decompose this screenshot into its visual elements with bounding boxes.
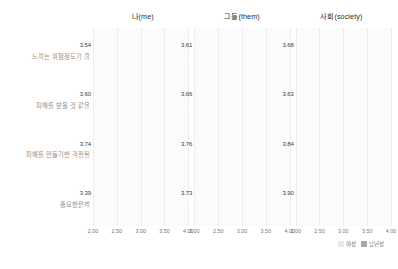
- bar-group: 3.61 3.64: [194, 28, 289, 78]
- x-tick: 2.50: [213, 228, 224, 234]
- x-tick: 2.00: [189, 228, 200, 234]
- bar-group: 3.54 3.53: [93, 28, 188, 78]
- axis-panel-me: 2.00 2.50 3.00 3.50 4.00: [93, 226, 188, 242]
- x-tick: 3.50: [261, 228, 272, 234]
- bar-value: 3.60: [71, 91, 91, 97]
- bar-value: 3.42: [71, 203, 91, 209]
- bar-value: 3.66: [172, 91, 192, 97]
- bar-group: 3.90 3.79: [296, 177, 391, 227]
- panel-society: 3.68 3.65 3.63: [296, 28, 391, 226]
- x-tick: 3.00: [237, 228, 248, 234]
- axis-spacer: [0, 226, 93, 242]
- bar-value: 3.63: [274, 91, 294, 97]
- legend-label: 여성: [346, 240, 356, 248]
- bar-value: 3.63: [274, 104, 294, 110]
- bar-value: 3.68: [274, 42, 294, 48]
- bar-group: 3.73 3.65: [194, 177, 289, 227]
- bar-value: 3.65: [274, 55, 294, 61]
- legend: 여성 남년성: [338, 240, 384, 248]
- bar-value: 3.39: [71, 190, 91, 196]
- bar-value: 3.84: [274, 141, 294, 147]
- bar-value: 3.53: [71, 55, 91, 61]
- legend-swatch-light-icon: [338, 241, 344, 247]
- bar-value: 3.75: [274, 154, 294, 160]
- bar-group: 3.76 3.75: [194, 127, 289, 177]
- plot-area: 느끼는 위험정도가 큼 피해를 받을 것 같음 피해를 만들기번 걱정됨 중요한…: [0, 28, 398, 226]
- legend-label: 남년성: [369, 240, 384, 248]
- bar-value: 3.75: [172, 154, 192, 160]
- panel-title-me: 나(me): [93, 11, 192, 27]
- legend-item-light: 여성: [338, 240, 356, 248]
- bar-group: 3.66 3.63: [194, 78, 289, 128]
- bar-value: 3.58: [71, 104, 91, 110]
- bar-value: 3.73: [172, 190, 192, 196]
- panel-title-society: 사회(society): [292, 11, 391, 27]
- x-tick: 2.00: [290, 228, 301, 234]
- bar-group: 3.60 3.58: [93, 78, 188, 128]
- bar-value: 3.64: [172, 55, 192, 61]
- x-tick: 4.00: [386, 228, 397, 234]
- gridline: [391, 28, 392, 226]
- bar-value: 3.90: [274, 190, 294, 196]
- bar-value: 3.79: [274, 203, 294, 209]
- bar-value: 3.61: [172, 42, 192, 48]
- x-tick: 2.00: [88, 228, 99, 234]
- x-tick: 2.50: [314, 228, 325, 234]
- x-tick: 3.50: [362, 228, 373, 234]
- bar-value: 3.54: [71, 42, 91, 48]
- panels: 3.54 3.53 3.60: [93, 28, 398, 226]
- panel-title-them: 그들(them): [192, 11, 291, 27]
- bar-value: 3.74: [71, 141, 91, 147]
- panel-titles: 나(me) 그들(them) 사회(society): [93, 11, 391, 27]
- bar-group: 3.74 3.69: [93, 127, 188, 177]
- bar-value: 3.76: [172, 141, 192, 147]
- bar-value: 3.65: [172, 203, 192, 209]
- legend-item-dark: 남년성: [361, 240, 384, 248]
- x-tick: 3.00: [135, 228, 146, 234]
- chart-figure: 나(me) 그들(them) 사회(society) 느끼는 위험정도가 큼 피…: [0, 0, 398, 269]
- bar-group: 3.39 3.42: [93, 177, 188, 227]
- bar-groups-society: 3.68 3.65 3.63: [296, 28, 391, 226]
- x-tick: 2.50: [112, 228, 123, 234]
- x-tick: 3.50: [159, 228, 170, 234]
- bar-group: 3.84 3.75: [296, 127, 391, 177]
- x-tick: 3.00: [338, 228, 349, 234]
- axis-panel-them: 2.00 2.50 3.00 3.50 4.00: [194, 226, 289, 242]
- bar-group: 3.68 3.65: [296, 28, 391, 78]
- bar-group: 3.63 3.63: [296, 78, 391, 128]
- bar-value: 3.69: [71, 154, 91, 160]
- legend-swatch-dark-icon: [361, 241, 367, 247]
- bar-value: 3.63: [172, 104, 192, 110]
